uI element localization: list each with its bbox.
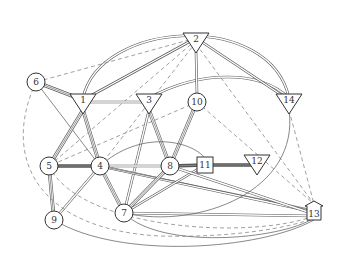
node-label: 4 — [97, 161, 103, 171]
edge — [124, 110, 149, 213]
edge — [100, 142, 205, 166]
node-10[interactable]: 10 — [188, 93, 206, 111]
node-label: 6 — [33, 77, 39, 87]
edge — [196, 52, 197, 94]
node-1[interactable]: 1 — [70, 94, 96, 114]
node-14[interactable]: 14 — [276, 94, 302, 114]
edges-layer — [23, 36, 314, 247]
node-label: 7 — [121, 208, 127, 218]
edge — [49, 110, 83, 166]
edge — [36, 38, 196, 82]
node-label: 9 — [51, 215, 57, 225]
node-11[interactable]: 11 — [197, 157, 213, 173]
node-label: 12 — [251, 156, 262, 166]
diagram-svg: 1234567891011121314 — [0, 0, 342, 255]
node-label: 8 — [167, 161, 173, 171]
edge — [124, 213, 314, 216]
edge — [197, 102, 314, 204]
edge — [54, 220, 314, 246]
node-label: 3 — [146, 95, 152, 105]
node-7[interactable]: 7 — [115, 204, 133, 222]
edge — [83, 36, 289, 98]
node-13[interactable]: 13 — [305, 201, 323, 220]
node-label: 1 — [80, 95, 86, 105]
node-5[interactable]: 5 — [40, 157, 58, 175]
node-label: 13 — [308, 209, 320, 219]
node-9[interactable]: 9 — [45, 211, 63, 229]
edge — [54, 166, 100, 220]
node-label: 2 — [193, 34, 199, 44]
node-8[interactable]: 8 — [161, 157, 179, 175]
node-4[interactable]: 4 — [91, 157, 109, 175]
edge — [170, 166, 314, 214]
node-3[interactable]: 3 — [136, 94, 162, 114]
node-label: 5 — [46, 161, 52, 171]
node-label: 11 — [199, 160, 210, 170]
edge — [49, 166, 314, 228]
edge — [289, 110, 314, 204]
network-diagram: 1234567891011121314 — [0, 0, 342, 255]
node-label: 14 — [283, 95, 295, 105]
node-label: 10 — [191, 97, 203, 107]
node-6[interactable]: 6 — [27, 73, 45, 91]
